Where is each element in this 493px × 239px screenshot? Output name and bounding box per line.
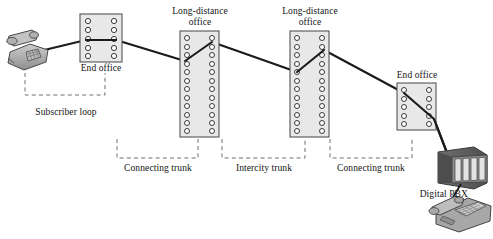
- span-bracket-intercity-trunk: [222, 139, 305, 158]
- switch-rack-long-distance-office-1[interactable]: [180, 31, 219, 137]
- label-long-distance-office-2: Long-distance office: [270, 6, 350, 28]
- label-end-office-right: End office: [392, 70, 442, 81]
- label-connecting-trunk-left: Connecting trunk: [113, 163, 203, 174]
- label-ldo2-line1: Long-distance: [282, 6, 338, 16]
- span-bracket-subscriber-loop: [25, 73, 105, 95]
- switch-rack-end-office-left[interactable]: [80, 14, 122, 62]
- network-link-overlay: [86, 40, 449, 158]
- label-ldo1-line2: office: [189, 17, 212, 27]
- label-ldo2-line2: office: [299, 17, 322, 27]
- network-diagram-canvas: End office Long-distance office Long-dis…: [0, 0, 493, 239]
- span-bracket-connecting-trunk-left: [117, 139, 198, 158]
- span-bracket-connecting-trunk-right: [330, 139, 412, 158]
- switch-rack-long-distance-office-2[interactable]: [290, 31, 329, 137]
- switch-rack-end-office-right[interactable]: [397, 83, 436, 130]
- desk-telephone-icon[interactable]: [7, 30, 48, 70]
- label-intercity-trunk: Intercity trunk: [219, 163, 309, 174]
- label-connecting-trunk-right: Connecting trunk: [326, 163, 416, 174]
- label-end-office-left: End office: [80, 63, 122, 74]
- label-ldo1-line1: Long-distance: [172, 6, 228, 16]
- label-digital-pbx: Digital PBX: [393, 189, 468, 200]
- diagram-svg: [0, 0, 493, 239]
- label-subscriber-loop: Subscriber loop: [20, 107, 112, 118]
- label-long-distance-office-1: Long-distance office: [160, 6, 240, 28]
- digital-telephone-icon[interactable]: [429, 196, 491, 232]
